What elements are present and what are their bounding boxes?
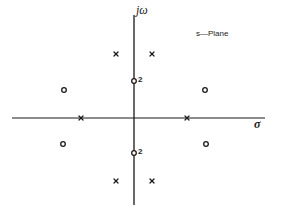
jw-axis-label: jω [136,4,148,16]
zero-upper-right [203,88,208,93]
pole-lower-right [150,179,154,183]
zero-upper-left [62,88,67,93]
s-plane-diagram [0,0,283,214]
sigma-axis-label: σ [254,118,260,130]
pole-lower-left [114,179,118,183]
zero-lower-right [204,142,209,147]
pole-upper-left [114,52,118,56]
pole-upper-right [150,52,154,56]
multiplicity-label-lower: 2 [138,148,142,156]
zero-imag-lower [132,151,137,156]
zero-imag-upper [132,79,137,84]
zero-lower-left [61,142,66,147]
s-plane-title: s—Plane [196,30,228,38]
multiplicity-label-upper: 2 [138,76,142,84]
